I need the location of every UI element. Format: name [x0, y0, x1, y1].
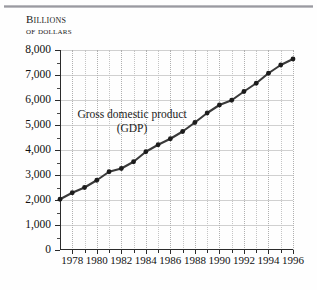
plot-area	[60, 50, 293, 250]
series-data-point	[70, 190, 75, 195]
series-data-point	[94, 178, 99, 183]
series-data-point	[58, 197, 63, 202]
x-axis-minor-tick	[207, 250, 208, 253]
x-axis-tick	[268, 250, 269, 254]
series-data-point	[266, 71, 271, 76]
x-axis-tick	[121, 250, 122, 254]
series-data-point	[131, 159, 136, 164]
x-axis-tick	[146, 250, 147, 254]
series-data-point	[217, 103, 222, 108]
series-data-point	[143, 149, 148, 154]
y-axis-unit-caption: Billions of dollars	[26, 13, 72, 37]
series-data-point	[82, 185, 87, 190]
series-data-point	[278, 63, 283, 68]
y-axis-tick-label: 5,000	[0, 118, 51, 130]
series-data-point	[119, 166, 124, 171]
x-axis-minor-tick	[85, 250, 86, 253]
unit-caption-line-2: of dollars	[26, 25, 72, 37]
x-axis-tick	[97, 250, 98, 254]
series-data-point	[229, 98, 234, 103]
y-axis-tick-label: 4,000	[0, 143, 51, 155]
series-data-point	[156, 142, 161, 147]
x-axis-tick	[293, 250, 294, 254]
top-decorative-rule	[4, 5, 313, 8]
annotation-line-2: (GDP)	[62, 121, 202, 135]
y-axis-tick-label: 6,000	[0, 93, 51, 105]
x-axis-minor-tick	[109, 250, 110, 253]
y-axis-tick-label: 3,000	[0, 168, 51, 180]
x-axis-tick	[219, 250, 220, 254]
x-axis-minor-tick	[134, 250, 135, 253]
series-data-point	[242, 89, 247, 94]
x-axis-tick	[170, 250, 171, 254]
x-axis-tick	[244, 250, 245, 254]
x-axis-minor-tick	[183, 250, 184, 253]
y-axis-tick-label: 8,000	[0, 43, 51, 55]
series-annotation-label: Gross domestic product (GDP)	[62, 107, 202, 135]
series-data-point	[291, 57, 296, 62]
x-axis-tick	[72, 250, 73, 254]
x-axis-tick-label: 1996	[276, 254, 310, 266]
x-axis-minor-tick	[232, 250, 233, 253]
y-axis-tick-label: 2,000	[0, 193, 51, 205]
series-data-point	[107, 169, 112, 174]
y-axis-tick-label: 0	[0, 243, 51, 255]
vertical-gridline	[293, 50, 294, 250]
x-axis-minor-tick	[256, 250, 257, 253]
series-data-point	[168, 136, 173, 141]
unit-caption-line-1: Billions	[26, 13, 72, 25]
y-axis-tick-label: 1,000	[0, 218, 51, 230]
y-axis-tick	[55, 250, 60, 251]
y-axis-tick-label: 7,000	[0, 68, 51, 80]
x-axis-tick	[195, 250, 196, 254]
annotation-line-1: Gross domestic product	[62, 107, 202, 121]
series-data-point	[205, 111, 210, 116]
series-data-point	[254, 81, 259, 86]
figure-container: Billions of dollars 01,0002,0003,0004,00…	[0, 0, 317, 290]
x-axis-minor-tick	[158, 250, 159, 253]
x-axis-minor-tick	[281, 250, 282, 253]
series-layer	[60, 50, 293, 250]
